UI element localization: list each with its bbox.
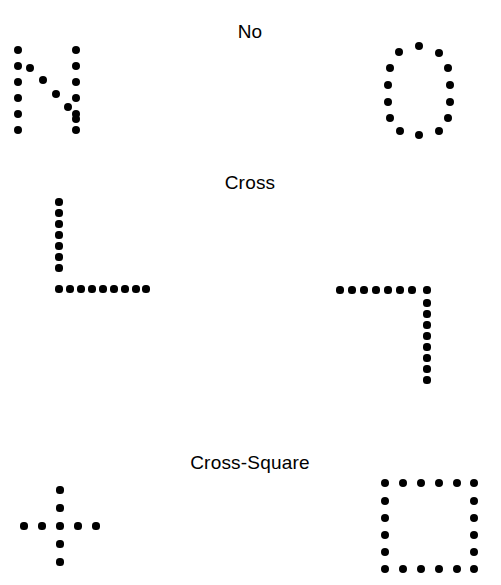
pattern-dot (74, 522, 81, 529)
pattern-dot (384, 81, 392, 89)
pattern-dot (56, 522, 63, 529)
pattern-dot (423, 376, 430, 383)
pattern-dot (423, 321, 430, 328)
pattern-dot (26, 64, 34, 72)
pattern-dot (56, 558, 63, 565)
pattern-dot (435, 127, 443, 135)
pattern-dot (66, 285, 73, 292)
pattern-dot (423, 343, 430, 350)
pattern-dot (435, 479, 443, 487)
pattern-dot (423, 354, 430, 361)
pattern-dot (423, 365, 430, 372)
pattern-dot (72, 126, 80, 134)
pattern-dot (14, 78, 22, 86)
pattern-dot (381, 479, 389, 487)
pattern-dot (381, 497, 389, 505)
corner-reverse-L-dots (0, 0, 501, 585)
pattern-dot (14, 62, 22, 70)
pattern-dot (470, 565, 478, 573)
pattern-dot (372, 286, 379, 293)
pattern-dot (396, 127, 404, 135)
pattern-dot (55, 231, 62, 238)
pattern-dot (396, 286, 403, 293)
pattern-dot (381, 514, 389, 522)
pattern-dot (415, 131, 423, 139)
pattern-dot (470, 514, 478, 522)
pattern-dot (408, 286, 415, 293)
pattern-dot (381, 548, 389, 556)
pattern-dot (38, 522, 45, 529)
pattern-dot (386, 114, 394, 122)
pattern-dot (446, 98, 454, 106)
pattern-dot (423, 332, 430, 339)
pattern-dot (55, 220, 62, 227)
pattern-dot (55, 242, 62, 249)
pattern-dot (470, 479, 478, 487)
pattern-dot (14, 46, 22, 54)
pattern-dot (110, 285, 117, 292)
row-label-no: No (238, 21, 263, 43)
pattern-dot (132, 285, 139, 292)
pattern-dot (381, 531, 389, 539)
pattern-dot (55, 209, 62, 216)
dot-pattern-figure: No Cross Cross-Square (0, 0, 501, 585)
letter-O-dots (0, 0, 501, 585)
pattern-dot (72, 110, 80, 118)
pattern-dot (72, 46, 80, 54)
pattern-dot (470, 531, 478, 539)
pattern-dot (384, 98, 392, 106)
plus-cross-dots (0, 0, 501, 585)
pattern-dot (55, 253, 62, 260)
pattern-dot (52, 90, 60, 98)
pattern-dot (435, 565, 443, 573)
pattern-dot (395, 48, 403, 56)
pattern-dot (14, 94, 22, 102)
pattern-dot (55, 264, 62, 271)
pattern-dot (14, 110, 22, 118)
pattern-dot (453, 479, 461, 487)
pattern-dot (444, 64, 452, 72)
pattern-dot (384, 286, 391, 293)
pattern-dot (470, 548, 478, 556)
pattern-dot (72, 94, 80, 102)
pattern-dot (56, 504, 63, 511)
pattern-dot (72, 115, 80, 123)
pattern-dot (56, 540, 63, 547)
pattern-dot (399, 479, 407, 487)
pattern-dot (446, 81, 454, 89)
pattern-dot (415, 42, 423, 50)
pattern-dot (142, 285, 149, 292)
pattern-dot (55, 198, 62, 205)
square-outline-dots (0, 0, 501, 585)
pattern-dot (381, 565, 389, 573)
pattern-dot (56, 486, 63, 493)
pattern-dot (444, 114, 452, 122)
pattern-dot (435, 49, 443, 57)
pattern-dot (417, 565, 425, 573)
pattern-dot (20, 522, 27, 529)
pattern-dot (72, 78, 80, 86)
pattern-dot (88, 285, 95, 292)
pattern-dot (453, 565, 461, 573)
pattern-dot (423, 299, 430, 306)
pattern-dot (72, 62, 80, 70)
pattern-dot (348, 286, 355, 293)
corner-L-dots (0, 0, 501, 585)
pattern-dot (360, 286, 367, 293)
pattern-dot (386, 64, 394, 72)
pattern-dot (121, 285, 128, 292)
pattern-dot (55, 285, 62, 292)
pattern-dot (14, 126, 22, 134)
pattern-dot (417, 479, 425, 487)
row-label-cross: Cross (225, 172, 276, 194)
pattern-dot (423, 310, 430, 317)
pattern-dot (92, 522, 99, 529)
pattern-dot (423, 286, 430, 293)
pattern-dot (77, 285, 84, 292)
pattern-dot (39, 76, 47, 84)
pattern-dot (399, 565, 407, 573)
row-label-cross-square: Cross-Square (190, 452, 310, 474)
pattern-dot (99, 285, 106, 292)
pattern-dot (470, 497, 478, 505)
pattern-dot (64, 103, 72, 111)
